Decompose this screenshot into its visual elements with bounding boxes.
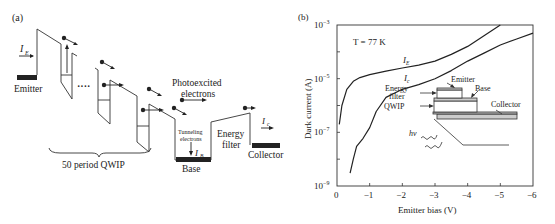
panel-a-labels: (a) I E Emitter ···· 50 period QWIP Phot… [12, 12, 284, 174]
inset-base-label: Base [475, 84, 491, 93]
inset-substrate [434, 119, 509, 145]
inset-emitter-layer [437, 88, 462, 90]
inset-collector-label: Collector [491, 100, 521, 109]
x-tick-label: 0 [334, 190, 339, 200]
qwip-label: 50 period QWIP [62, 160, 125, 170]
y-tick-label: 10−3 [314, 19, 329, 30]
emitter-contact [17, 75, 37, 80]
collector-contact [252, 143, 280, 148]
tunneling-label-1: Tunneling [178, 129, 202, 135]
inset-filter-layer [437, 90, 462, 98]
inset-filter-label-2: filter [389, 92, 405, 101]
x-tick-label: −5 [494, 190, 504, 200]
ie-curve-label: IE [402, 55, 410, 66]
x-tick-label: −4 [462, 190, 472, 200]
photoexcited-label-1: Photoexcited [172, 78, 222, 88]
qwip-brace [49, 148, 151, 157]
y-axis: 10−910−710−510−3 [314, 19, 340, 191]
y-tick-label: 10−9 [314, 180, 329, 191]
ie-label: I [19, 43, 24, 54]
tunneling-label-2: electrons [180, 136, 202, 142]
ellipsis: ···· [77, 81, 90, 92]
x-tick-label: −6 [527, 190, 537, 200]
y-tick-label: 10−7 [314, 126, 329, 137]
figure: (a) I E Emitter ···· 50 period QWIP Phot… [0, 0, 555, 224]
inset-qwip-label: QWIP [384, 102, 405, 111]
ib-label: I [194, 148, 199, 158]
inset-qwip-layer [434, 101, 477, 112]
ic-label: I [261, 116, 266, 126]
x-tick-label: −3 [429, 190, 439, 200]
temperature-annotation: T = 77 K [353, 37, 386, 47]
ic-curve-label: Ic [403, 73, 410, 84]
ic-sub: c [267, 121, 270, 127]
x-axis-label: Emitter bias (V) [398, 205, 456, 215]
base-label: Base [182, 164, 200, 174]
energy-filter-label-1: Energy [217, 129, 245, 139]
inset-collector-layer [437, 114, 517, 119]
device-inset [420, 83, 517, 149]
panel-b-chart: (b) 10−910−710−510−3 0−1−2−3−4−5−6 Dark … [298, 12, 537, 215]
emitter-label: Emitter [14, 84, 43, 94]
panel-b-label: (b) [298, 12, 309, 22]
x-tick-label: −2 [396, 190, 406, 200]
photoexcited-label-2: electrons [181, 89, 216, 99]
base-contact [176, 157, 211, 162]
inset-base-layer [434, 98, 477, 101]
inset-photon-label: hν [409, 129, 417, 138]
collector-label: Collector [248, 150, 284, 160]
x-tick-label: −1 [364, 190, 374, 200]
y-axis-label: Dark current (A) [303, 79, 313, 139]
inset-emitter-label: Emitter [451, 75, 475, 84]
energy-filter-label-2: filter [222, 140, 241, 150]
y-tick-label: 10−5 [314, 73, 329, 84]
ie-sub: E [24, 50, 29, 56]
panel-a-band-diagram [17, 29, 280, 162]
panel-a-label: (a) [12, 12, 23, 24]
